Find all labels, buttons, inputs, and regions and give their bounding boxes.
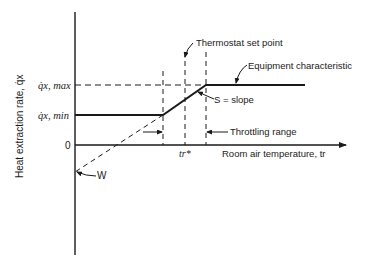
equipment-characteristic-label: Equipment characteristic	[248, 60, 352, 71]
w-leader-arrow	[77, 172, 96, 176]
qmax-label: q̇x, max	[38, 80, 71, 91]
thermostat-leader-arrow	[185, 43, 193, 57]
throttling-range-label: Throttling range	[230, 126, 297, 137]
slope-label: S = slope	[214, 94, 254, 105]
qmin-label: q̇x, min	[38, 110, 69, 121]
slope-extension-dashed	[75, 115, 163, 172]
setpoint-tick-label: tr*	[179, 148, 191, 159]
equipment-characteristic-line	[75, 85, 305, 115]
zero-label: 0	[65, 140, 71, 151]
y-axis-label: Heat extraction rate, q̇x	[14, 75, 25, 178]
equipment-leader-arrow	[236, 65, 247, 83]
thermostat-setpoint-label: Thermostat set point	[196, 37, 283, 48]
thermostat-control-diagram: Heat extraction rate, q̇x q̇x, max q̇x, …	[0, 0, 370, 258]
w-intercept-label: W	[97, 170, 107, 181]
x-axis-label: Room air temperature, tr	[222, 148, 325, 159]
